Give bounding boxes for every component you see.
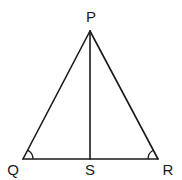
angle-mark-q: [28, 150, 33, 159]
triangle-diagram: P Q S R: [0, 0, 182, 180]
angle-mark-r: [148, 150, 153, 159]
label-p: P: [86, 8, 96, 25]
label-q: Q: [7, 161, 19, 178]
label-s: S: [85, 161, 95, 178]
segment-pq: [23, 31, 90, 159]
label-r: R: [163, 161, 174, 178]
segment-pr: [90, 31, 158, 159]
